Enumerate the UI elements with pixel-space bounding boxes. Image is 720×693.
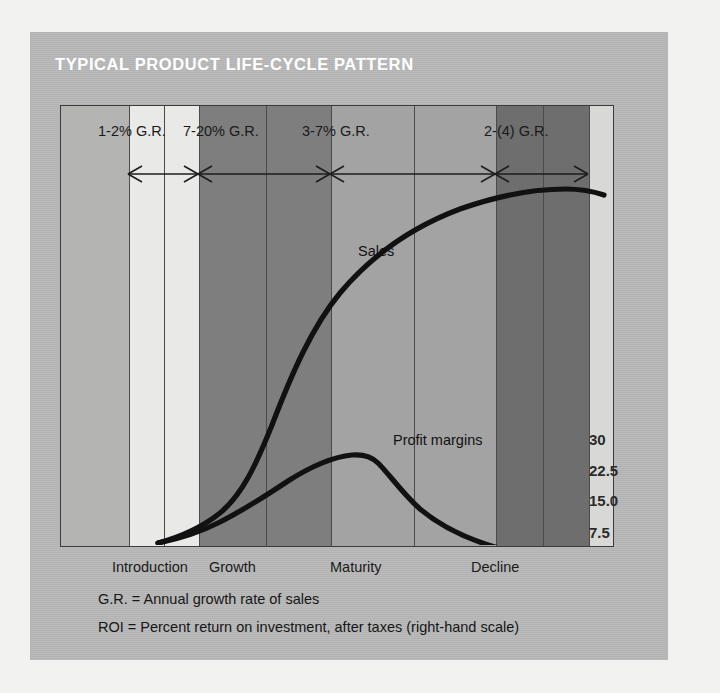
profit-margins-curve-label: Profit margins [393,432,482,448]
sales-curve-label: Sales [358,243,394,259]
stage-label-growth: Growth [209,559,256,575]
stage-label-maturity: Maturity [330,559,382,575]
ruler-svg [60,145,612,185]
stage-label-decline: Decline [471,559,519,575]
page-title: TYPICAL PRODUCT LIFE-CYCLE PATTERN [55,55,414,74]
chart-card: TYPICAL PRODUCT LIFE-CYCLE PATTERN 1-2% … [30,32,668,660]
footnote-roi: ROI = Percent return on investment, afte… [98,619,519,635]
right-scale-value-7-5: 7.5 [589,524,610,541]
footnote-gr: G.R. = Annual growth rate of sales [98,591,319,607]
right-scale-value-30: 30 [589,431,606,448]
right-scale-value-22-5: 22.5 [589,462,618,479]
stage-span-ruler [60,145,612,185]
right-scale-value-15-0: 15.0 [589,492,618,509]
stage-label-introduction: Introduction [112,559,188,575]
profit-margins-curve [158,455,588,545]
